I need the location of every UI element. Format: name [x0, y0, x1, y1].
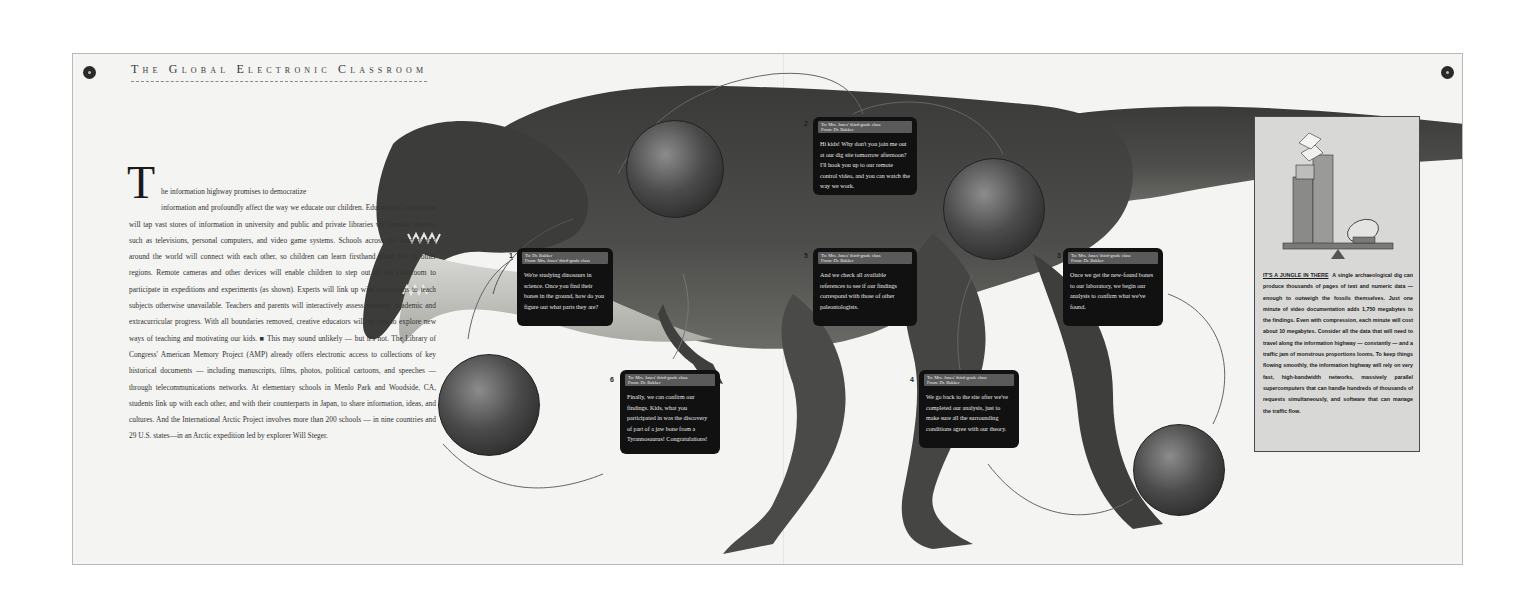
message-bubble-6: To: Mrs. Jones' third-grade classFrom: D… — [620, 370, 720, 454]
message-header: To: Mrs. Jones' third-grade classFrom: D… — [1068, 252, 1158, 264]
folio-left-icon — [83, 66, 96, 79]
sidebar-kicker: IT'S A JUNGLE IN THERE — [1263, 272, 1328, 278]
message-text: And we check all available references to… — [818, 270, 912, 312]
article-body: T he information highway promises to dem… — [129, 162, 436, 445]
photo-student — [438, 354, 540, 456]
sidebar-text: A single archaeological dig can produce … — [1263, 272, 1413, 414]
message-text: We go back to the site after we've compl… — [924, 392, 1014, 434]
photo-paleontologist — [626, 120, 724, 218]
running-head: The Global Electronic Classroom — [131, 62, 427, 80]
photo-lab-analysis — [1133, 424, 1225, 516]
step-number: 4 — [910, 376, 914, 383]
message-text: We're studying dinosaurs in science. Onc… — [522, 270, 608, 312]
message-header: To: Mrs. Jones' third-grade classFrom: D… — [818, 252, 912, 264]
message-bubble-4: To: Mrs. Jones' third-grade classFrom: D… — [919, 370, 1019, 448]
message-header: To: Mrs. Jones' third-grade classFrom: D… — [924, 374, 1014, 386]
photo-dig-site — [943, 158, 1045, 260]
data-scale-illustration — [1263, 125, 1413, 260]
article-paragraph: information and profoundly affect the wa… — [129, 203, 436, 440]
message-bubble-2: To: Mrs. Jones' third-grade classFrom: D… — [813, 117, 917, 195]
message-text: Once we get the new-found bones to our l… — [1068, 270, 1158, 312]
step-number: 6 — [610, 376, 614, 383]
step-number: 5 — [804, 252, 808, 259]
sidebar-caption: IT'S A JUNGLE IN THERE A single archaeol… — [1263, 270, 1413, 417]
step-number: 1 — [509, 252, 513, 259]
magazine-spread: The Global Electronic Classroom T he inf… — [72, 53, 1463, 565]
drop-cap: T — [127, 164, 155, 202]
message-header: To: Mrs. Jones' third-grade classFrom: D… — [625, 374, 715, 386]
message-text: Finally, we can confirm our findings. Ki… — [625, 392, 715, 445]
message-bubble-1: To: Dr. BakkerFrom: Mrs. Jones' third-gr… — [517, 248, 613, 326]
message-bubble-3: To: Mrs. Jones' third-grade classFrom: D… — [1063, 248, 1163, 326]
message-bubble-5: To: Mrs. Jones' third-grade classFrom: D… — [813, 248, 917, 326]
step-number: 2 — [804, 120, 808, 127]
sidebar-box: IT'S A JUNGLE IN THERE A single archaeol… — [1254, 116, 1420, 452]
message-header: To: Mrs. Jones' third-grade classFrom: D… — [818, 121, 912, 133]
step-number: 3 — [1057, 252, 1061, 259]
message-text: Hi kids! Why don't you join me out at ou… — [818, 139, 912, 192]
message-header: To: Dr. BakkerFrom: Mrs. Jones' third-gr… — [522, 252, 608, 264]
folio-right-icon — [1441, 66, 1454, 79]
article-first-line: he information highway promises to democ… — [129, 184, 436, 200]
